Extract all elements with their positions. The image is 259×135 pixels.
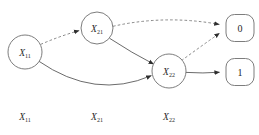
terminal-node-0[interactable]: 0 — [226, 15, 254, 42]
node-x22[interactable]: X22 — [152, 54, 186, 88]
edge-x21-to-terminal0 — [113, 20, 219, 26]
diagram-canvas: X11 X21 X22 0 1 X11 X21 X22 — [0, 0, 259, 135]
terminal-1-label: 1 — [238, 67, 243, 78]
edge-x11-to-x22 — [39, 61, 152, 85]
edge-x22-to-terminal0 — [181, 33, 219, 60]
terminal-0-label: 0 — [238, 23, 243, 34]
terminal-node-1[interactable]: 1 — [226, 59, 254, 86]
edge-x11-to-x21 — [41, 31, 80, 45]
column-label-x22: X22 — [162, 112, 175, 123]
edge-x21-to-x22 — [110, 38, 154, 64]
node-x11[interactable]: X11 — [8, 35, 42, 69]
column-label-x21: X21 — [90, 112, 103, 123]
trellis-graph: X11 X21 X22 0 1 X11 X21 X22 — [0, 0, 259, 135]
edge-x22-to-terminal1 — [186, 72, 220, 73]
column-label-x11: X11 — [18, 112, 31, 123]
node-x21[interactable]: X21 — [81, 12, 113, 44]
